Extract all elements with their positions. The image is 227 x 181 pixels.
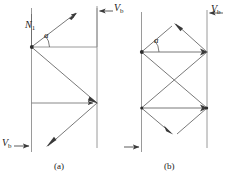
panel-b-upper-left-vertex	[140, 50, 144, 54]
panel-b-velocity-top-subscript: b	[217, 8, 221, 16]
figure-container: N1 a Vb Vb a Vb (a) (b)	[0, 0, 227, 181]
panel-b-angle-label: a	[154, 36, 159, 45]
panel-a-velocity-bottom-label: Vb	[2, 138, 12, 150]
panel-a-normal-label: N1	[25, 20, 35, 32]
panel-b-geometry	[124, 10, 223, 152]
panel-b-ray-lower-left-arrowhead	[164, 126, 173, 135]
panel-b-lower-left-vertex	[140, 106, 143, 109]
panel-a-velocity-top-subscript: b	[120, 7, 124, 15]
panel-a-ray-arrowhead-upper	[69, 12, 77, 20]
panel-a-ray-segment-1	[32, 13, 77, 47]
panel-b-lower-right-vertex	[205, 106, 208, 109]
panel-a-incidence-point	[30, 45, 34, 49]
panel-b-ray-lower-right-outgoing	[177, 108, 207, 134]
panel-a-velocity-top-label: Vb	[114, 3, 124, 15]
panel-a-angle-label: a	[44, 31, 49, 40]
panel-a-normal-symbol: N	[25, 19, 32, 30]
panel-a-ray-segment-2	[32, 47, 98, 103]
panel-b-ray-upper-right-arrowhead	[174, 23, 183, 31]
panel-b-velocity-top-label: Vb	[211, 4, 221, 16]
panel-b-caption: (b)	[164, 161, 175, 171]
panel-a-velocity-bottom-subscript: b	[8, 142, 12, 150]
panel-a-ray-arrowhead-lower	[46, 137, 56, 147]
panel-a-normal-subscript: 1	[32, 24, 36, 32]
panel-a-caption: (a)	[54, 161, 64, 171]
